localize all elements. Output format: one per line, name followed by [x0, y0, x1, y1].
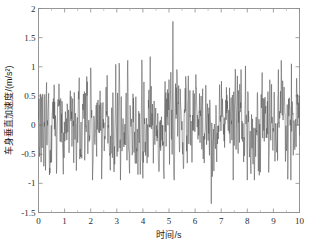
acceleration-time-chart: 012345678910 -1.5-1-0.500.511.52 时间/s 车身… — [0, 0, 312, 244]
x-tick-label: 10 — [295, 216, 305, 226]
y-tick-label: 1 — [31, 62, 36, 72]
x-tick-label: 6 — [193, 216, 198, 226]
y-tick-label: 1.5 — [24, 33, 36, 43]
y-tick-label: -1.5 — [21, 208, 36, 218]
x-tick-label: 4 — [141, 216, 146, 226]
y-tick-label: 0.5 — [24, 91, 36, 101]
x-tick-label: 5 — [167, 216, 172, 226]
x-tick-label: 7 — [219, 216, 224, 226]
x-tick-label: 1 — [62, 216, 67, 226]
y-tick-label: -1 — [28, 178, 36, 188]
y-tick-label: 2 — [31, 4, 36, 14]
x-tick-label: 2 — [88, 216, 93, 226]
y-tick-label: -0.5 — [21, 149, 36, 159]
y-tick-label: 0 — [31, 120, 36, 130]
x-tick-label: 9 — [271, 216, 276, 226]
x-tick-label: 0 — [36, 216, 41, 226]
x-axis-title: 时间/s — [156, 229, 182, 240]
figure-container: 012345678910 -1.5-1-0.500.511.52 时间/s 车身… — [0, 0, 312, 244]
x-tick-label: 8 — [245, 216, 250, 226]
x-tick-label: 3 — [115, 216, 120, 226]
y-axis-title: 车身垂直加速度/(m/s²) — [3, 66, 14, 155]
